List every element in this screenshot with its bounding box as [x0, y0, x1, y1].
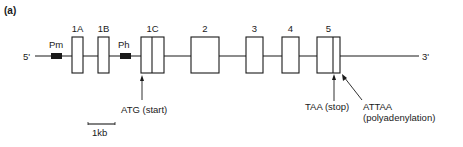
exon-box: [246, 37, 263, 73]
start-codon-label: ATG (start): [121, 104, 167, 115]
exon-label: 1A: [72, 23, 84, 34]
exon-label: 3: [252, 23, 257, 34]
exon-box: [317, 37, 340, 73]
five-prime-label: 5': [23, 51, 30, 62]
polya-signal-label: ATTAA: [363, 101, 393, 112]
polya-arrow-line: [344, 77, 362, 100]
exon-box: [191, 37, 219, 73]
exon-1a: 1A: [72, 23, 84, 73]
exon-3: 3: [246, 23, 263, 73]
diagram-canvas: (a) 5' 3' Pm Ph 1A1B1C2345 ATG (start) T…: [0, 0, 463, 147]
exon-4: 4: [282, 23, 299, 73]
start-arrow-head: [140, 75, 144, 81]
exon-label: 5: [326, 23, 331, 34]
promoter-pm: Pm: [49, 39, 63, 59]
panel-label: (a): [4, 5, 16, 16]
promoter-label: Pm: [49, 39, 63, 50]
exon-group: 1A1B1C2345: [72, 23, 340, 73]
exon-5: 5: [317, 23, 340, 73]
promoter-label: Ph: [118, 39, 130, 50]
exon-box: [72, 37, 83, 73]
stop-codon-label: TAA (stop): [305, 101, 349, 112]
exon-2: 2: [191, 23, 219, 73]
exon-label: 1C: [146, 23, 158, 34]
exon-label: 1B: [98, 23, 110, 34]
exon-box: [98, 37, 109, 73]
exon-1c: 1C: [141, 23, 164, 73]
exon-label: 2: [202, 23, 207, 34]
exon-label: 4: [288, 23, 293, 34]
promoter-box: [51, 53, 62, 59]
exon-1b: 1B: [98, 23, 110, 73]
polya-description-label: (polyadenylation): [363, 112, 435, 123]
exon-box: [282, 37, 299, 73]
promoter-box: [120, 53, 131, 59]
scale-bar-label: 1kb: [92, 127, 107, 138]
three-prime-label: 3': [422, 51, 429, 62]
gene-structure-diagram: (a) 5' 3' Pm Ph 1A1B1C2345 ATG (start) T…: [0, 0, 463, 147]
stop-arrow-head: [332, 74, 336, 80]
